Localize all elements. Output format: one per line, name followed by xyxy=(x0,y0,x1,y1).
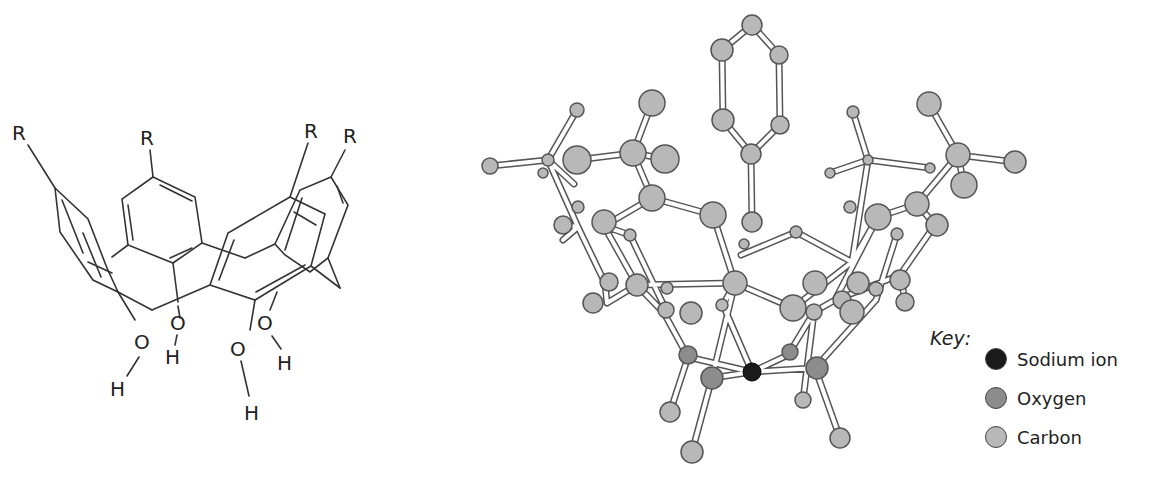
r-label: R xyxy=(304,119,318,143)
key-label: Carbon xyxy=(1017,427,1082,448)
skeletal-labels: R R R R O O O O H H H H xyxy=(12,119,357,425)
hydrogen-label: H xyxy=(110,377,125,401)
oxygen-swatch-icon xyxy=(985,387,1007,409)
carbon-swatch-icon xyxy=(985,426,1007,448)
oxygen-label: O xyxy=(230,337,246,361)
oxygen-label: O xyxy=(170,311,186,335)
skeletal-formula xyxy=(28,143,348,396)
key-item-sodium: Sodium ion xyxy=(985,346,1118,372)
key-label: Sodium ion xyxy=(1017,349,1118,370)
figure: R R R R O O O O H H H H xyxy=(0,0,1151,492)
key-item-oxygen: Oxygen xyxy=(985,385,1086,411)
ball-and-stick-model xyxy=(482,15,1026,463)
sodium-ion xyxy=(743,363,761,381)
oxygen-label: O xyxy=(134,330,150,354)
hydrogen-label: H xyxy=(277,351,292,375)
sodium-swatch-icon xyxy=(985,348,1007,370)
r-label: R xyxy=(12,121,26,145)
key-label: Oxygen xyxy=(1017,388,1086,409)
bonds xyxy=(490,25,1015,452)
hydrogen-label: H xyxy=(244,401,259,425)
key-title: Key: xyxy=(930,327,971,349)
r-label: R xyxy=(140,126,154,150)
oxygen-label: O xyxy=(257,311,273,335)
key-item-carbon: Carbon xyxy=(985,424,1082,450)
hydrogen-label: H xyxy=(165,345,180,369)
r-label: R xyxy=(343,124,357,148)
